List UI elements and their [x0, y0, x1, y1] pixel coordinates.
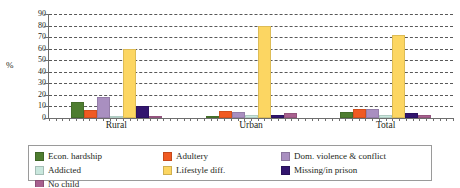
- legend-swatch-icon: [163, 166, 172, 175]
- legend-label: Dom. violence & conflict: [294, 151, 386, 161]
- bars: [340, 14, 431, 118]
- legend-item[interactable]: Adultery: [163, 151, 281, 161]
- bar-group-urban: [184, 14, 319, 118]
- bar: [418, 115, 431, 118]
- legend-swatch-icon: [163, 152, 172, 161]
- bars: [71, 14, 162, 118]
- bars: [206, 14, 297, 118]
- legend-item[interactable]: No child: [35, 179, 163, 187]
- legend-label: Addicted: [48, 165, 81, 175]
- legend-swatch-icon: [35, 166, 44, 175]
- y-axis-label: %: [6, 60, 14, 70]
- legend-label: Lifestyle diff.: [176, 165, 225, 175]
- bar: [379, 115, 392, 118]
- bar: [366, 109, 379, 118]
- bar: [97, 97, 110, 118]
- legend-label: Adultery: [176, 151, 208, 161]
- y-axis-tick-labels: 9080706050403020100: [22, 14, 46, 118]
- bar: [271, 115, 284, 118]
- bar: [232, 112, 245, 118]
- category-label-urban: Urban: [184, 120, 319, 138]
- legend-item[interactable]: Addicted: [35, 165, 163, 175]
- x-axis-minor-tick: [453, 118, 454, 121]
- legend-items: Econ. hardshipAdulteryDom. violence & co…: [35, 149, 425, 187]
- category-label-rural: Rural: [49, 120, 184, 138]
- bar: [123, 49, 136, 118]
- bar: [340, 112, 353, 118]
- legend-item[interactable]: Missing/in prison: [281, 165, 429, 175]
- legend-swatch-icon: [35, 152, 44, 161]
- bar: [206, 116, 219, 118]
- legend-label: Econ. hardship: [48, 151, 102, 161]
- x-axis-category-labels: RuralUrbanTotal: [49, 120, 453, 138]
- bar: [284, 113, 297, 118]
- bar-group-total: [318, 14, 453, 118]
- bar: [149, 116, 162, 118]
- plot-area: % 9080706050403020100 RuralUrbanTotal: [0, 0, 460, 140]
- bar: [84, 110, 97, 118]
- bar: [405, 113, 418, 118]
- bar: [245, 115, 258, 118]
- legend-label: Missing/in prison: [294, 165, 357, 175]
- legend-label: No child: [48, 179, 79, 187]
- chart-root: % 9080706050403020100 RuralUrbanTotal Ec…: [0, 0, 460, 187]
- bar: [136, 106, 149, 118]
- bar: [110, 116, 123, 118]
- legend-item[interactable]: Econ. hardship: [35, 151, 163, 161]
- legend-item[interactable]: Dom. violence & conflict: [281, 151, 429, 161]
- category-label-total: Total: [318, 120, 453, 138]
- chart-legend: Econ. hardshipAdulteryDom. violence & co…: [28, 145, 432, 181]
- legend-item[interactable]: Lifestyle diff.: [163, 165, 281, 175]
- bar: [392, 35, 405, 118]
- bar: [258, 26, 271, 118]
- bar: [353, 109, 366, 118]
- legend-swatch-icon: [281, 152, 290, 161]
- bar-group-rural: [49, 14, 184, 118]
- legend-swatch-icon: [35, 180, 44, 188]
- bar: [71, 102, 84, 118]
- bar-groups: [49, 14, 453, 118]
- bar: [219, 111, 232, 118]
- legend-swatch-icon: [281, 166, 290, 175]
